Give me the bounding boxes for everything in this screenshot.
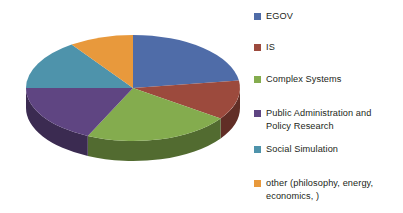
legend-item-other[interactable]: other (philosophy, energy, economics, )	[254, 177, 403, 202]
legend-item-complex-systems[interactable]: Complex Systems	[254, 73, 403, 86]
legend-label-is: IS	[266, 41, 275, 54]
legend-swatch-complex-systems	[254, 76, 261, 83]
legend-swatch-is	[254, 44, 261, 51]
pie-chart-plot-area	[0, 0, 250, 213]
legend-swatch-social-simulation	[254, 146, 261, 153]
legend-swatch-public-administration	[254, 110, 261, 117]
legend-swatch-other	[254, 180, 261, 187]
legend-label-complex-systems: Complex Systems	[266, 73, 341, 86]
legend-label-other: other (philosophy, energy, economics, )	[266, 177, 373, 202]
legend-item-public-administration[interactable]: Public Administration and Policy Researc…	[254, 107, 403, 132]
pie-slice-egov[interactable]	[133, 35, 239, 88]
chart-legend: EGOV IS Complex Systems Public Administr…	[250, 0, 403, 213]
pie-top-faces	[26, 35, 240, 141]
legend-label-public-administration: Public Administration and Policy Researc…	[266, 107, 371, 132]
pie-chart-figure: EGOV IS Complex Systems Public Administr…	[0, 0, 403, 213]
pie-chart-svg	[0, 0, 250, 213]
legend-swatch-egov	[254, 13, 261, 20]
legend-item-social-simulation[interactable]: Social Simulation	[254, 143, 403, 156]
legend-item-egov[interactable]: EGOV	[254, 10, 403, 23]
legend-item-is[interactable]: IS	[254, 41, 403, 54]
legend-label-social-simulation: Social Simulation	[266, 143, 338, 156]
legend-label-egov: EGOV	[266, 10, 293, 23]
